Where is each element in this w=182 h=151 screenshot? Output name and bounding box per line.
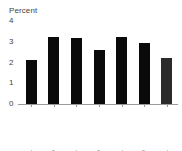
x-axis-label-1990-94: 1990-94 [27,150,35,151]
bar-chart: Percent 4 3 2 1 0 1990-941995-992000-042… [0,0,182,151]
x-axis-label-wrap: 2020-24 [163,110,173,150]
y-axis-tick-3: 3 [9,38,18,46]
x-axis-label-2015-19: 2015-19 [140,150,148,151]
y-axis-tick-4: 4 [9,17,18,25]
y-axis-tick-2: 2 [9,59,18,67]
x-axis-label-2000-04: 2000-04 [72,150,80,151]
x-tick-mark-1995-99 [54,104,55,107]
y-axis-tick-1: 1 [9,79,18,87]
x-axis-label-wrap: 2015-19 [140,110,150,150]
x-axis-label-wrap: 1990-94 [27,110,37,150]
x-axis-label-2005-09: 2005-09 [95,150,103,151]
plot-area [20,21,178,104]
x-tick-mark-2010-14 [122,104,123,107]
x-axis-label-wrap: 2000-04 [72,110,82,150]
y-axis-title: Percent [9,6,37,15]
x-axis-label-2020-24: 2020-24 [163,150,171,151]
x-tick-mark-2000-04 [76,104,77,107]
bar-2015-19 [139,43,150,104]
x-tick-mark-2015-19 [144,104,145,107]
bar-2020-24 [161,58,172,104]
bar-2000-04 [71,38,82,104]
x-axis-label-1995-99: 1995-99 [50,150,58,151]
x-tick-mark-2020-24 [167,104,168,107]
x-tick-mark-2005-09 [99,104,100,107]
bar-1995-99 [48,37,59,104]
x-axis-label-wrap: 2010-14 [118,110,128,150]
bar-2010-14 [116,37,127,104]
bar-1990-94 [26,60,37,104]
x-axis-label-wrap: 2005-09 [95,110,105,150]
bar-2005-09 [94,50,105,104]
x-axis-label-wrap: 1995-99 [50,110,60,150]
x-axis-baseline [18,104,178,105]
x-axis-label-2010-14: 2010-14 [118,150,126,151]
y-axis-tick-0: 0 [9,100,18,108]
x-tick-mark-1990-94 [31,104,32,107]
